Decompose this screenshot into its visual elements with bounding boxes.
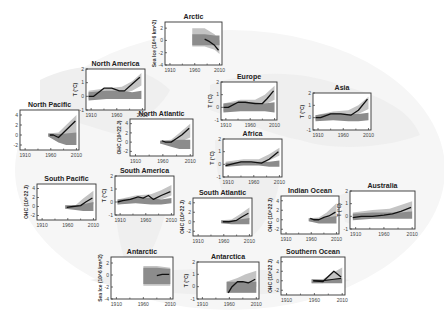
- panel-title: Europe: [237, 73, 261, 80]
- panel-title: North Atlantic: [138, 110, 184, 117]
- panel-title: South Atlantic: [199, 189, 246, 196]
- world-map-background: [0, 0, 444, 323]
- panel-title: North America: [92, 60, 140, 67]
- panel-title: Africa: [243, 130, 263, 137]
- panel-title: South America: [120, 167, 169, 174]
- panel-title: Antarctic: [127, 248, 157, 255]
- panel-title: Indian Ocean: [288, 187, 332, 194]
- panel-title: Antarctica: [211, 253, 245, 260]
- panel-title: South Pacific: [44, 175, 88, 182]
- panel-title: Asia: [335, 84, 350, 91]
- panel-title: Australia: [368, 182, 398, 189]
- panel-title: Arctic: [184, 13, 204, 20]
- panel-title: North Pacific: [28, 101, 71, 108]
- panel-title: Southern Ocean: [286, 248, 340, 255]
